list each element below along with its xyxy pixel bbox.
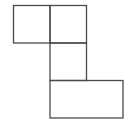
shapes-group <box>14 6 124 119</box>
top-left-square <box>14 6 51 44</box>
top-right-square <box>50 6 87 44</box>
diagram-canvas <box>0 0 139 123</box>
middle-square <box>50 43 87 81</box>
bottom-rectangle <box>50 81 123 119</box>
